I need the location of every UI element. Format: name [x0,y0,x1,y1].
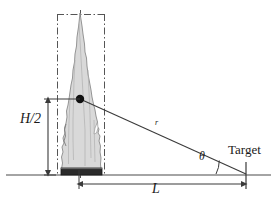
flame-plume [62,13,102,169]
label-radial-distance: r [155,119,158,127]
height-dimension-arrow [45,97,51,177]
label-angle-theta: θ [199,150,205,162]
label-horizontal-distance: L [152,182,160,196]
label-target: Target [228,143,261,156]
label-flame-half-height: H/2 [20,112,41,126]
radiation-geometry-figure: H/2 L r θ Target [0,0,277,205]
length-dimension-arrow [77,181,248,187]
angle-arc [216,161,219,175]
diagram-canvas [0,0,277,205]
